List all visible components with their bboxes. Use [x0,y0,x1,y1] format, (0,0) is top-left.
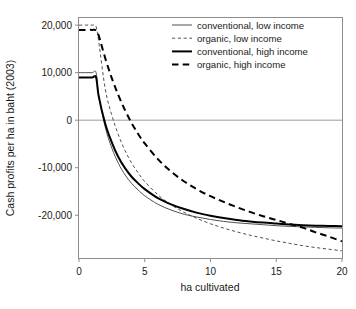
x-tick-label: 0 [76,266,82,277]
chart-figure: 20,00010,0000-10,000-20,000 05101520 con… [0,0,356,309]
series-line-0 [79,71,342,228]
y-tick-label: -20,000 [38,210,72,221]
series-line-2 [79,76,342,226]
x-tick-label: 15 [271,266,283,277]
y-tick-label: 20,000 [41,20,72,31]
legend-label-1: organic, low income [197,33,282,44]
x-tick-label: 10 [205,266,217,277]
x-tick-label: 5 [142,266,148,277]
x-axis-tick-labels: 05101520 [76,266,348,277]
legend-label-2: conventional, high income [197,46,308,57]
legend-label-3: organic, high income [197,59,286,70]
y-axis-title: Cash profits per ha in baht (2003) [4,60,16,216]
cash-profits-line-chart: 20,00010,0000-10,000-20,000 05101520 con… [0,0,356,309]
legend-label-0: conventional, low income [197,20,304,31]
x-tick-label: 20 [336,266,348,277]
y-tick-label: -10,000 [38,162,72,173]
x-axis-title: ha cultivated [181,281,240,293]
y-tick-label: 10,000 [41,67,72,78]
y-axis-tick-labels: 20,00010,0000-10,000-20,000 [38,20,72,221]
chart-legend: conventional, low incomeorganic, low inc… [172,20,308,71]
y-tick-label: 0 [66,115,72,126]
